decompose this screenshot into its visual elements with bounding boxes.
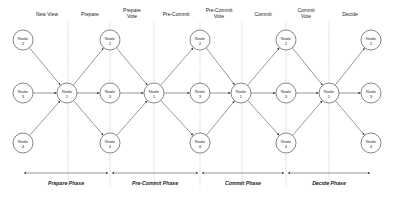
node-label: Node — [18, 36, 29, 41]
phase-label: Pre-Commit Phase — [132, 180, 178, 186]
node-label: Node — [366, 139, 377, 144]
message-arrow — [116, 48, 147, 85]
node-4: Node4 — [276, 133, 296, 153]
message-arrow — [73, 48, 103, 85]
node-label: Node — [366, 36, 377, 41]
node-2: Node2 — [276, 30, 296, 50]
node-1: Node1 — [231, 83, 251, 103]
node-3: Node3 — [13, 83, 33, 103]
stage-label: PrepareVote — [123, 7, 141, 19]
stage-label: Prepare — [81, 11, 99, 17]
message-arrow — [206, 48, 234, 85]
node-label: Node — [281, 89, 292, 94]
node-label: Node — [195, 139, 206, 144]
node-4: Node4 — [361, 133, 381, 153]
node-label: Node — [105, 139, 116, 144]
node-4: Node4 — [100, 133, 120, 153]
node-3: Node3 — [276, 83, 296, 103]
node-1: Node1 — [57, 83, 77, 103]
message-arrow — [335, 101, 364, 135]
phase-label: Decide Phase — [312, 180, 346, 186]
node-label: Node — [236, 89, 247, 94]
node-2: Node2 — [13, 30, 33, 50]
message-arrow — [29, 48, 60, 85]
phase-ranges: Prepare PhasePre-Commit PhaseCommit Phas… — [24, 173, 370, 186]
message-arrow — [293, 101, 323, 135]
node-label: Node — [18, 139, 29, 144]
stage-label: Pre-Commit — [163, 11, 190, 17]
node-label: Node — [195, 89, 206, 94]
phase-range: Prepare Phase — [24, 173, 108, 186]
node-label: Node — [366, 89, 377, 94]
message-arrow — [335, 48, 364, 85]
node-2: Node2 — [100, 30, 120, 50]
node-3: Node3 — [361, 83, 381, 103]
node-1: Node1 — [319, 83, 339, 103]
message-arrow — [292, 48, 322, 85]
phase-range: Pre-Commit Phase — [112, 173, 198, 186]
phase-range: Decide Phase — [288, 173, 370, 186]
node-label: Node — [105, 89, 116, 94]
message-arrow — [161, 100, 193, 135]
node-1: Node1 — [144, 83, 164, 103]
stage-label: Decide — [342, 11, 358, 17]
message-arrow — [74, 101, 104, 135]
node-label: Node — [195, 36, 206, 41]
node-label: Node — [105, 36, 116, 41]
hotstuff-phase-diagram: New ViewPreparePrepareVotePre-CommitPre-… — [0, 0, 396, 197]
node-label: Node — [18, 89, 29, 94]
node-3: Node3 — [100, 83, 120, 103]
node-4: Node4 — [13, 133, 33, 153]
phase-range: Commit Phase — [202, 173, 284, 186]
message-arrow — [206, 101, 234, 135]
stage-label: CommitVote — [297, 7, 315, 19]
node-4: Node4 — [190, 133, 210, 153]
node-label: Node — [62, 89, 73, 94]
message-arrow — [161, 48, 194, 86]
node-label: Node — [149, 89, 160, 94]
node-label: Node — [281, 139, 292, 144]
message-arrow — [30, 101, 60, 136]
stage-labels: New ViewPreparePrepareVotePre-CommitPre-… — [36, 7, 358, 19]
stage-label: New View — [36, 11, 59, 17]
node-label: Node — [281, 36, 292, 41]
node-2: Node2 — [190, 30, 210, 50]
phase-label: Prepare Phase — [48, 180, 84, 186]
node-2: Node2 — [361, 30, 381, 50]
node-label: Node — [324, 89, 335, 94]
stage-label: Pre-CommitVote — [206, 7, 233, 19]
message-arrow — [117, 101, 147, 136]
node-3: Node3 — [190, 83, 210, 103]
message-arrow — [247, 48, 279, 85]
stage-label: Commit — [254, 11, 272, 17]
phase-label: Commit Phase — [225, 180, 261, 186]
message-arrow — [248, 100, 279, 135]
